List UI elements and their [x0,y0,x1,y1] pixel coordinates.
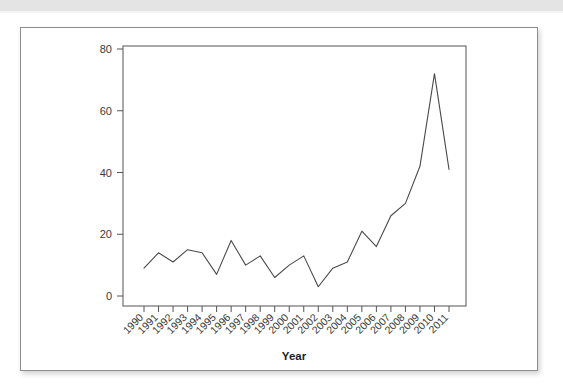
line-chart: 020406080 199019911992199319941995199619… [21,28,539,372]
y-tick-label: 0 [106,290,112,302]
x-axis-title: Year [282,350,307,362]
y-axis-ticks: 020406080 [100,43,123,302]
chart-canvas: 020406080 199019911992199319941995199619… [21,28,539,372]
top-gray-band [0,0,563,11]
top-band-edge [0,11,563,13]
y-tick-label: 40 [100,167,112,179]
figure-card: 020406080 199019911992199319941995199619… [20,27,538,371]
y-tick-label: 80 [100,43,112,55]
data-series-line [144,74,449,287]
x-axis-ticks: 1990199119921993199419951996199719981999… [120,306,450,336]
y-tick-label: 20 [100,228,112,240]
plot-area-frame [123,46,466,306]
y-tick-label: 60 [100,105,112,117]
